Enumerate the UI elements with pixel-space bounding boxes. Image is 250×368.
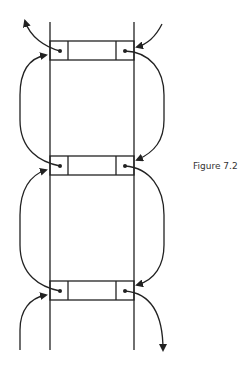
arrow-node3-prev	[20, 170, 60, 291]
node1-next-dot	[123, 49, 127, 53]
linked-list-diagram	[0, 0, 250, 368]
node-3	[50, 281, 134, 300]
arrow-node1-next	[125, 51, 164, 160]
node1-prev-dot	[58, 49, 62, 53]
arrow-node2-prev	[20, 55, 60, 166]
arrow-node2-next	[125, 166, 164, 285]
node2-next-dot	[123, 164, 127, 168]
arrow-out-top	[25, 21, 60, 51]
figure-caption: Figure 7.2	[193, 161, 238, 171]
node-1	[50, 41, 134, 60]
arrow-in-top	[137, 24, 162, 47]
node2-prev-dot	[58, 164, 62, 168]
node3-next-dot	[123, 289, 127, 293]
node-2	[50, 156, 134, 175]
node3-prev-dot	[58, 289, 62, 293]
arrow-in-bottom	[20, 295, 46, 350]
